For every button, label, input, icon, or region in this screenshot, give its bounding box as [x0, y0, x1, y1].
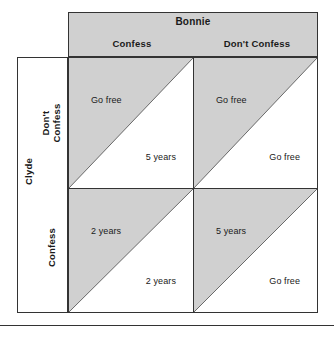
- cell-diagonal-shading-icon: [194, 189, 317, 312]
- cell-diagonal-shading-icon: [69, 189, 193, 312]
- bottom-divider: [0, 325, 334, 326]
- payoff-lower-value: Go free: [269, 152, 300, 162]
- payoff-lower-value: 2 years: [146, 276, 176, 286]
- column-player-name: Bonnie: [69, 16, 317, 27]
- row-strategy-confess: Confess: [46, 218, 57, 278]
- payoff-cell: 2 years 2 years: [69, 189, 194, 312]
- payoff-cell: Go free Go free: [194, 58, 317, 189]
- payoff-matrix-figure: Bonnie Confess Don't Confess Clyde Don't…: [0, 0, 334, 337]
- payoff-upper-value: Go free: [91, 95, 122, 105]
- cell-diagonal-shading-icon: [194, 58, 317, 188]
- row-header-block: Clyde Don't Confess Confess: [17, 57, 68, 313]
- payoff-lower-value: 5 years: [146, 152, 176, 162]
- column-strategy-confess: Confess: [69, 38, 195, 49]
- payoff-upper-value: 5 years: [216, 226, 246, 236]
- row-strategy-dont-confess: Don't Confess: [40, 90, 62, 156]
- payoff-upper-value: Go free: [216, 95, 247, 105]
- cell-diagonal-shading-icon: [69, 58, 193, 188]
- column-strategy-dont-confess: Don't Confess: [195, 38, 319, 49]
- payoff-upper-value: 2 years: [91, 226, 121, 236]
- payoff-cell: Go free 5 years: [69, 58, 194, 189]
- payoff-grid: Go free 5 years Go free Go free 2 years …: [68, 57, 318, 313]
- row-player-name: Clyde: [23, 142, 34, 202]
- column-header-block: Bonnie Confess Don't Confess: [68, 12, 318, 57]
- payoff-cell: 5 years Go free: [194, 189, 317, 312]
- payoff-lower-value: Go free: [269, 276, 300, 286]
